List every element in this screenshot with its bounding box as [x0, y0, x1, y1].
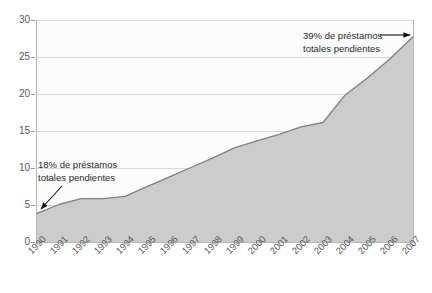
y-tick-label-30: 30: [4, 15, 30, 25]
annotation-right-line1: 39% de préstamos: [303, 30, 382, 43]
y-tick-mark-5: [31, 205, 35, 206]
y-tick-label-15: 15: [4, 126, 30, 136]
y-tick-mark-25: [31, 57, 35, 58]
y-tick-mark-15: [31, 131, 35, 132]
annotation-left-line1: 18% de préstamos: [38, 159, 117, 172]
area-chart: 30 25 20 15 10 5 0 1990 1991 1992 1993 1…: [0, 0, 432, 293]
y-tick-mark-10: [31, 168, 35, 169]
annotation-right: 39% de préstamos totales pendientes: [303, 30, 382, 55]
y-tick-label-10: 10: [4, 163, 30, 173]
y-tick-mark-30: [31, 20, 35, 21]
y-tick-label-5: 5: [4, 200, 30, 210]
y-tick-label-20: 20: [4, 89, 30, 99]
y-tick-label-25: 25: [4, 52, 30, 62]
annotation-left-line2: totales pendientes: [38, 172, 117, 185]
annotation-left: 18% de préstamos totales pendientes: [38, 159, 117, 184]
annotation-right-line2: totales pendientes: [303, 43, 382, 56]
y-tick-mark-20: [31, 94, 35, 95]
series-area-preestamos: [37, 37, 413, 242]
